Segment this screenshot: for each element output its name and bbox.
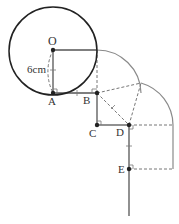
dashed-arc-O-A [48, 50, 53, 93]
label-E: E [118, 164, 125, 175]
dashed-D-to-arc [129, 83, 141, 125]
point-B [95, 91, 99, 95]
dashed-B-D [97, 93, 129, 125]
label-A: A [48, 96, 56, 107]
label-D: D [116, 127, 124, 138]
point-O [51, 48, 55, 52]
label-O: O [48, 35, 57, 47]
dashed-B-to-arc [97, 83, 141, 93]
point-D [127, 123, 131, 127]
point-E [127, 167, 131, 171]
arc-center-D [141, 83, 173, 169]
geometry-figure [0, 0, 179, 224]
label-C: C [89, 128, 96, 139]
label-B: B [83, 95, 90, 106]
label-radius: 6cm [27, 64, 46, 75]
arc-center-B [97, 50, 141, 93]
